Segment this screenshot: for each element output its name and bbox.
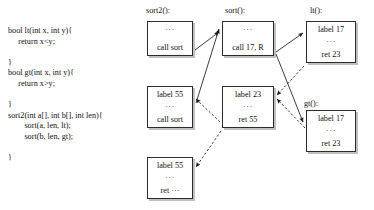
source-code-block: bool lt(int x, int y){ return x<y; } boo… [8,26,140,164]
edge-sortret55-to-sort2label55ret [196,131,221,167]
edge-lt-to-sortlabel23 [277,66,304,95]
frame-box-gt-label17-ret23[interactable]: label 17 ··· ret 23 [306,110,356,152]
frame-line: ··· [326,126,336,136]
frame-box-sort2-call[interactable]: ··· call sort [147,21,193,56]
code-line: return x>y; [8,79,140,90]
code-line [8,143,140,154]
frame-line: ret 23 [322,50,341,60]
edge-sortcall-to-gt [276,54,303,122]
frame-line: ··· [243,102,253,112]
column-header-sort2: sort2(): [146,6,170,16]
frame-line: label 17 [318,114,344,124]
code-line: } [8,58,140,69]
column-header-gt: gt(): [304,99,318,109]
frame-box-sort2-label55-call[interactable]: label 55 ··· call sort [147,86,193,128]
frame-box-sort-label23-ret55[interactable]: label 23 ··· ret 55 [222,86,274,128]
frame-line: ··· [326,37,336,47]
frame-line: label 55 [157,161,183,171]
frame-line: call 17, R [232,43,264,53]
frame-line: ··· [243,25,253,35]
frame-line: ··· [165,173,175,183]
edge-sort2call-to-sortcall [195,32,219,50]
frame-box-sort2-label55-ret[interactable]: label 55 ··· ret ··· [147,157,193,199]
column-header-lt: lt(): [310,6,322,16]
frame-line: ret 55 [239,115,258,125]
code-line: sort(b, len, gt); [8,132,140,143]
frame-box-sort-call17[interactable]: ··· call 17, R [222,21,274,56]
frame-line: call sort [157,115,183,125]
frame-box-lt-label17-ret23[interactable]: label 17 ··· ret 23 [306,21,356,63]
frame-line: label 55 [157,90,183,100]
code-line: return x<y; [8,37,140,48]
code-line: bool lt(int x, int y){ [8,26,140,37]
frame-line: ret 23 [322,139,341,149]
column-header-sort: sort(): [225,6,245,16]
frame-line: label 17 [318,25,344,35]
code-line: } [8,153,140,164]
code-line: sort(a, len, lt); [8,121,140,132]
frame-line: ret ··· [161,186,180,196]
frame-line: call sort [157,43,183,53]
edge-gt-to-sortlabel23 [277,99,305,128]
edge-sortret55-to-sort2label55call [196,99,220,122]
code-line [8,90,140,101]
frame-line: ··· [165,25,175,35]
diagram-canvas: bool lt(int x, int y){ return x<y; } boo… [0,0,374,210]
frame-line: label 23 [235,90,261,100]
frame-line: ··· [165,102,175,112]
edge-sort2label55call-to-sortcall [196,29,219,103]
code-line [8,47,140,58]
code-line: } [8,100,140,111]
code-line: sort2(int a[], int b[], int len){ [8,111,140,122]
code-line: bool gt(int x, int y){ [8,68,140,79]
edge-sortcall-to-lt [276,33,303,52]
